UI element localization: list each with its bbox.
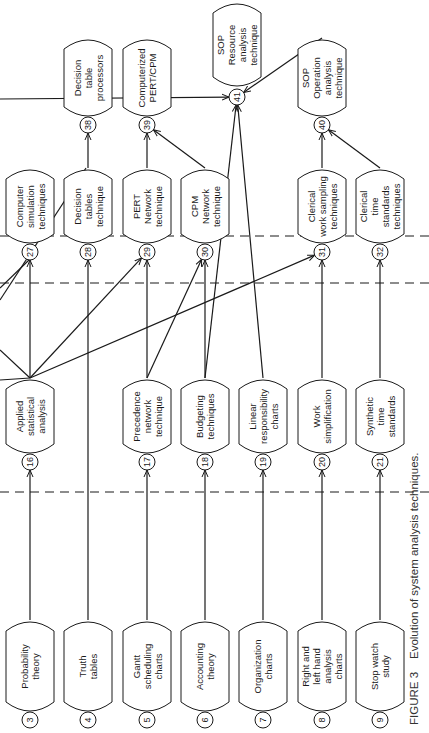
node-label: Computersimulationtechniques <box>14 183 47 229</box>
node-label-line: statistical <box>25 397 36 436</box>
node-label-line: Operation <box>311 57 322 99</box>
node-label: Budgetingtechniques <box>194 393 216 439</box>
node-label-line: Truth <box>77 656 88 678</box>
edge-19-to-41 <box>238 105 263 378</box>
node-label-line: SOP <box>300 68 311 88</box>
node-20: 20Worksimplification <box>298 380 346 470</box>
node-5: 5Ganttschedulingcharts <box>123 622 171 728</box>
node-label-line: Network <box>142 189 153 224</box>
node-number: 9 <box>375 717 385 722</box>
node-label-line: Decision <box>72 188 83 224</box>
node-label-line: techniques <box>328 183 339 229</box>
node-number: 8 <box>317 717 327 722</box>
node-number: 30 <box>200 247 210 257</box>
node-label-line: Network <box>200 189 211 224</box>
node-label-line: Synthetic <box>364 397 375 436</box>
node-label-line: Computer <box>14 186 25 228</box>
node-label-line: Clerical <box>358 191 369 223</box>
node-label-line: standards <box>386 395 397 437</box>
node-label-line: processors <box>94 55 105 102</box>
node-label-line: technique <box>94 186 105 227</box>
node-number: 18 <box>200 457 210 467</box>
node-39: 39ComputerizedPERT/CPM <box>123 40 171 133</box>
node-label-line: standards <box>380 185 391 227</box>
node-label-line: charts <box>153 653 164 679</box>
node-8: 8Right andleft handanalysischarts <box>298 622 346 728</box>
node-label-line: technique <box>248 24 259 65</box>
caption-label: FIGURE 3 <box>408 672 420 725</box>
node-label-line: PERT/CPM <box>147 53 158 102</box>
node-number: 20 <box>317 457 327 467</box>
node-30: 30CPMNetworktechnique <box>181 170 229 260</box>
node-number: 28 <box>83 247 93 257</box>
node-label-line: analysis <box>322 61 333 96</box>
node-label-line: time <box>375 408 386 426</box>
figure-caption: FIGURE 3 Evolution of system analysis te… <box>408 453 420 725</box>
node-label-line: technique <box>153 186 164 227</box>
node-41: 41SOPResourceanalysistechnique <box>213 4 261 105</box>
node-label-line: techniques <box>205 393 216 439</box>
node-number: 19 <box>258 457 268 467</box>
node-label-line: techniques <box>391 183 402 229</box>
node-label-line: scheduling <box>142 644 153 689</box>
node-40: 40SOPOperationanalysistechnique <box>298 40 346 133</box>
edge-16-to-offpage <box>0 350 30 378</box>
evolution-diagram: 3Probabilitytheory4Truthtables5Ganttsche… <box>0 0 429 733</box>
edge-offpage-to-41 <box>0 97 229 99</box>
node-7: 7Organizationcharts <box>239 622 287 728</box>
node-label: Truthtables <box>77 654 99 680</box>
node-label-line: network <box>142 400 153 434</box>
node-label-line: theory <box>205 653 216 680</box>
node-label-line: table <box>83 68 94 89</box>
node-number: 17 <box>142 457 152 467</box>
node-number: 4 <box>83 717 93 722</box>
node-38: 38Decisiontableprocessors <box>64 40 112 133</box>
node-4: 4Truthtables <box>64 622 112 728</box>
node-label-line: Resource <box>226 25 237 66</box>
node-number: 6 <box>200 717 210 722</box>
node-label-line: charts <box>263 653 274 679</box>
node-number: 3 <box>25 717 35 722</box>
edge-16-to-29 <box>30 258 142 378</box>
node-label-line: PERT <box>131 194 142 219</box>
node-label-line: Stop watch <box>369 643 380 690</box>
node-label-line: SOP <box>215 35 226 55</box>
node-29: 29PERTNetworktechnique <box>123 170 171 260</box>
node-label-line: Right and <box>300 646 311 687</box>
node-16: 16Appliedstatisticalanalysis <box>6 380 54 470</box>
edge-16-to-31 <box>30 255 315 378</box>
node-label-line: work sampling <box>317 176 328 238</box>
node-31: 31Clericalwork samplingtechniques <box>298 170 346 260</box>
node-number: 5 <box>142 717 152 722</box>
node-label-line: Gantt <box>131 655 142 679</box>
node-27: 27Computersimulationtechniques <box>6 170 54 260</box>
node-number: 40 <box>317 120 327 130</box>
node-number: 38 <box>83 120 93 130</box>
node-label-line: technique <box>211 186 222 227</box>
node-6: 6Accountingtheory <box>181 622 229 728</box>
node-number: 29 <box>142 247 152 257</box>
node-21: 21Synthetictimestandards <box>356 380 404 470</box>
node-label-line: techniques <box>36 183 47 229</box>
node-label-line: study <box>380 655 391 678</box>
node-label-line: theory <box>30 653 41 680</box>
node-label-line: analysis <box>237 28 248 63</box>
edge-17-to-30 <box>147 259 202 378</box>
node-number: 27 <box>25 247 35 257</box>
node-label-line: tables <box>83 194 94 220</box>
node-label-line: Budgeting <box>194 395 205 438</box>
node-label-line: simplification <box>322 389 333 443</box>
node-19: 19Linearresponsibilitycharts <box>239 380 287 470</box>
node-number: 41 <box>232 92 242 102</box>
node-label-line: Accounting <box>194 643 205 690</box>
node-label-line: analysis <box>36 399 47 434</box>
edge-30-to-39 <box>153 130 205 168</box>
node-label-line: responsibility <box>258 389 269 444</box>
node-number: 7 <box>258 717 268 722</box>
node-number: 21 <box>375 457 385 467</box>
node-9: 9Stop watchstudy <box>356 622 404 728</box>
node-label-line: CPM <box>189 196 200 217</box>
node-label: Appliedstatisticalanalysis <box>14 397 47 436</box>
node-label-line: Work <box>311 405 322 427</box>
node-label-line: Applied <box>14 401 25 433</box>
